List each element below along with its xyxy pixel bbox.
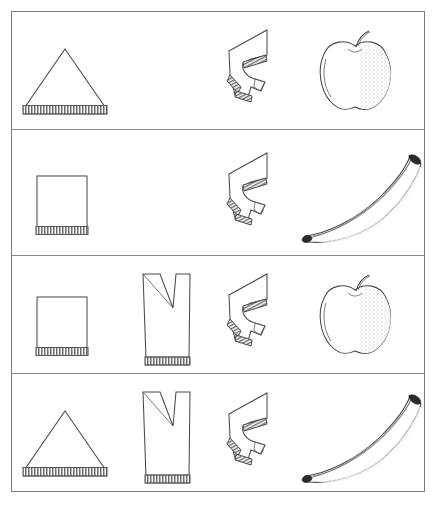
square-with-hatched-base-glyph <box>32 171 92 241</box>
notched-cup-shape-glyph <box>132 386 198 490</box>
apple <box>294 256 426 373</box>
zigzag-polygon-glyph <box>221 269 287 365</box>
cell-apple <box>294 256 426 373</box>
triangle-with-hatched-base <box>12 374 117 493</box>
row-1 <box>12 12 424 130</box>
row-2 <box>12 130 424 256</box>
triangle-with-hatched-base-glyph <box>19 405 111 485</box>
banana-glyph <box>297 388 429 488</box>
cell-triangle-with-hatched-base <box>12 374 117 493</box>
cell-notched-cup-shape <box>117 374 212 493</box>
cell-zigzag-polygon <box>208 130 300 255</box>
cell-triangle-with-hatched-base <box>12 12 117 129</box>
cell-banana <box>294 130 426 255</box>
apple-glyph <box>312 27 398 119</box>
zigzag-polygon <box>208 130 300 255</box>
cell-notched-cup-shape <box>117 256 212 373</box>
row-3 <box>12 256 424 374</box>
row-4 <box>12 374 424 493</box>
triangle-with-hatched-base-glyph <box>19 43 111 123</box>
cell-banana <box>294 374 426 493</box>
apple-glyph <box>312 271 398 363</box>
square-with-hatched-base <box>12 256 117 373</box>
square-with-hatched-base-glyph <box>32 292 92 362</box>
zigzag-polygon <box>208 256 300 373</box>
zigzag-polygon-glyph <box>221 388 287 484</box>
cell-empty-cell <box>117 130 212 255</box>
banana <box>294 130 426 255</box>
cell-zigzag-polygon <box>208 256 300 373</box>
cell-square-with-hatched-base <box>12 130 117 255</box>
triangle-with-hatched-base <box>12 12 117 129</box>
notched-cup-shape-glyph <box>132 268 198 372</box>
figure-frame <box>11 11 425 492</box>
zigzag-polygon-glyph <box>221 25 287 121</box>
banana <box>294 374 426 493</box>
notched-cup-shape <box>117 374 212 493</box>
cell-zigzag-polygon <box>208 12 300 129</box>
zigzag-polygon <box>208 374 300 493</box>
cell-apple <box>294 12 426 129</box>
zigzag-polygon-glyph <box>221 148 287 244</box>
notched-cup-shape <box>117 256 212 373</box>
banana-glyph <box>297 148 429 248</box>
cell-zigzag-polygon <box>208 374 300 493</box>
square-with-hatched-base <box>12 130 117 255</box>
zigzag-polygon <box>208 12 300 129</box>
cell-empty-cell <box>117 12 212 129</box>
cell-square-with-hatched-base <box>12 256 117 373</box>
apple <box>294 12 426 129</box>
